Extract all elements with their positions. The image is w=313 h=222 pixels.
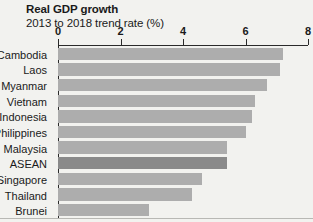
category-label-laos: Laos (23, 64, 47, 76)
bar-indonesia[interactable] (58, 110, 252, 122)
bar-row[interactable]: Thailand (58, 187, 308, 203)
bar-cambodia[interactable] (58, 48, 283, 60)
x-axis-tick (58, 39, 59, 45)
x-axis-tick-label: 4 (180, 25, 186, 37)
category-label-malaysia: Malaysia (4, 143, 47, 155)
bar-vietnam[interactable] (58, 95, 255, 107)
bar-chart: Real GDP growth 2013 to 2018 trend rate … (0, 0, 313, 222)
category-label-thailand: Thailand (5, 190, 47, 202)
x-axis-tick-label: 8 (305, 25, 311, 37)
x-axis-tick-label: 6 (242, 25, 248, 37)
category-label-cambodia: Cambodia (0, 49, 47, 61)
chart-title: Real GDP growth (26, 2, 306, 16)
bar-singapore[interactable] (58, 173, 202, 185)
bar-row[interactable]: Myanmar (58, 77, 308, 93)
bar-malaysia[interactable] (58, 141, 227, 153)
category-label-asean: ASEAN (10, 158, 47, 170)
chart-subtitle: 2013 to 2018 trend rate (%) (26, 16, 306, 30)
bar-row[interactable]: Singapore (58, 171, 308, 187)
bar-myanmar[interactable] (58, 79, 267, 91)
category-label-singapore: Singapore (0, 174, 47, 186)
bar-row[interactable]: Vietnam (58, 93, 308, 109)
plot-area: CambodiaLaosMyanmarVietnamIndonesiaPhili… (58, 46, 308, 218)
bar-asean[interactable] (58, 157, 227, 169)
bar-row[interactable]: Brunei (58, 202, 308, 218)
x-axis-tick (308, 39, 309, 45)
category-label-philippines: Philippines (0, 127, 47, 139)
bar-row[interactable]: Malaysia (58, 140, 308, 156)
x-axis-tick-label: 0 (55, 25, 61, 37)
bar-row[interactable]: Cambodia (58, 46, 308, 62)
bar-row[interactable]: Indonesia (58, 109, 308, 125)
category-label-myanmar: Myanmar (1, 80, 47, 92)
chart-bottom-border (0, 218, 313, 219)
x-axis-tick-label: 2 (117, 25, 123, 37)
bar-philippines[interactable] (58, 126, 246, 138)
category-label-vietnam: Vietnam (7, 96, 47, 108)
x-axis-tick (121, 39, 122, 45)
category-label-brunei: Brunei (15, 205, 47, 217)
x-axis-tick (246, 39, 247, 45)
bar-laos[interactable] (58, 63, 280, 75)
x-axis-tick (183, 39, 184, 45)
bar-thailand[interactable] (58, 188, 192, 200)
bar-row[interactable]: ASEAN (58, 155, 308, 171)
bar-brunei[interactable] (58, 204, 149, 216)
category-label-indonesia: Indonesia (0, 111, 47, 123)
bar-row[interactable]: Philippines (58, 124, 308, 140)
bar-row[interactable]: Laos (58, 62, 308, 78)
chart-title-block: Real GDP growth 2013 to 2018 trend rate … (26, 2, 306, 30)
